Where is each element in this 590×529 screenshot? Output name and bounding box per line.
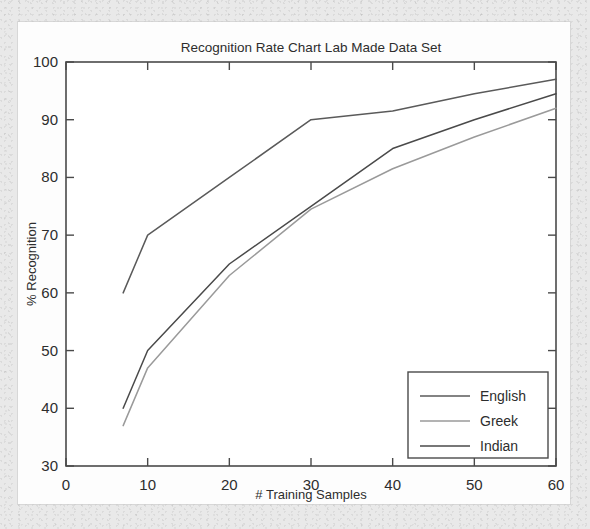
y-tick-label: 50 — [41, 342, 58, 359]
y-axis-title: % Recognition — [24, 222, 39, 306]
y-tick-label: 40 — [41, 399, 58, 416]
recognition-rate-line-chart: Recognition Rate Chart Lab Made Data Set… — [18, 22, 570, 504]
chart-title: Recognition Rate Chart Lab Made Data Set — [181, 40, 442, 55]
x-tick-label: 60 — [548, 476, 565, 493]
x-tick-label: 50 — [466, 476, 483, 493]
chart-figure: Recognition Rate Chart Lab Made Data Set… — [18, 22, 570, 504]
y-tick-label: 30 — [41, 457, 58, 474]
legend-label-english: English — [480, 388, 526, 404]
x-tick-label: 10 — [139, 476, 156, 493]
y-tick-label: 100 — [33, 53, 58, 70]
y-tick-label: 70 — [41, 226, 58, 243]
legend-label-greek: Greek — [480, 413, 519, 429]
y-tick-label: 80 — [41, 168, 58, 185]
x-tick-label: 0 — [62, 476, 70, 493]
y-tick-label: 60 — [41, 284, 58, 301]
legend-box — [408, 372, 548, 458]
x-tick-label: 40 — [384, 476, 401, 493]
y-tick-label: 90 — [41, 111, 58, 128]
chart-legend[interactable]: EnglishGreekIndian — [408, 372, 548, 458]
scanned-page: Recognition Rate Chart Lab Made Data Set… — [0, 0, 590, 529]
x-axis-title: # Training Samples — [255, 487, 367, 502]
legend-label-indian: Indian — [480, 438, 518, 454]
x-tick-label: 20 — [221, 476, 238, 493]
